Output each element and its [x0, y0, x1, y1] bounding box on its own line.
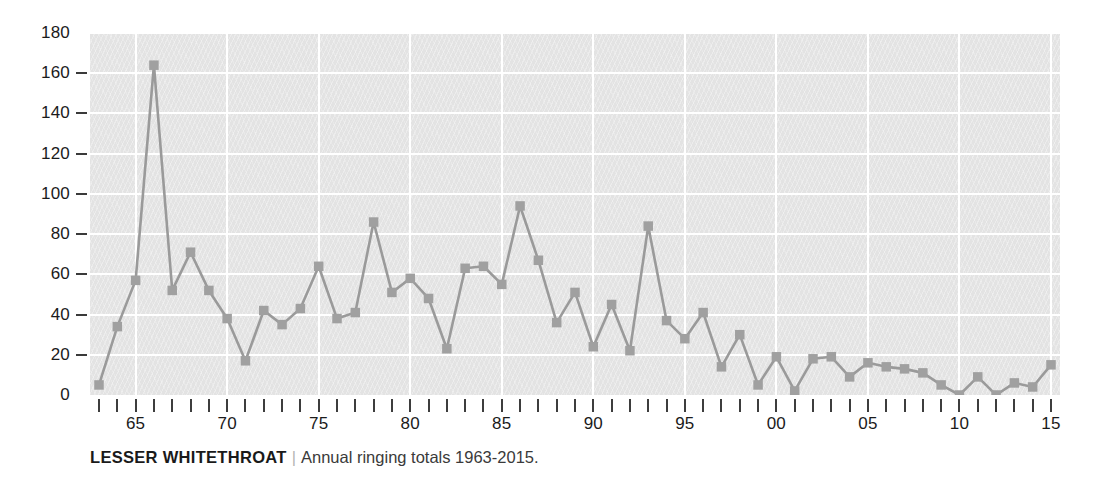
- x-axis-tick-mark: [849, 399, 851, 412]
- y-axis: 020406080100120140160180: [0, 0, 90, 488]
- data-point-marker: [442, 344, 452, 354]
- data-point-marker: [479, 262, 489, 272]
- x-axis-tick-mark: [428, 399, 430, 412]
- x-axis-tick-label: 10: [950, 414, 969, 434]
- x-axis-tick-mark: [98, 399, 100, 412]
- data-point-marker: [332, 314, 342, 324]
- x-axis-tick-mark: [336, 399, 338, 412]
- x-axis-tick-mark: [684, 399, 686, 412]
- x-axis-tick-mark: [171, 399, 173, 412]
- data-point-marker: [314, 262, 324, 272]
- y-axis-tick-label: 0: [60, 387, 70, 403]
- x-axis-tick-label: 65: [126, 414, 145, 434]
- x-axis-tick-mark: [556, 399, 558, 412]
- x-axis-tick-mark: [958, 399, 960, 412]
- x-axis-tick-mark: [464, 399, 466, 412]
- y-axis-tick-mark: [76, 273, 87, 275]
- y-axis-tick-label: 20: [51, 347, 70, 363]
- x-axis-tick-mark: [922, 399, 924, 412]
- x-axis-tick-mark: [391, 399, 393, 412]
- y-axis-tick-mark: [76, 354, 87, 356]
- data-point-marker: [113, 322, 123, 332]
- x-axis-tick-mark: [812, 399, 814, 412]
- data-point-marker: [625, 346, 635, 356]
- data-point-marker: [534, 256, 544, 266]
- data-point-marker: [607, 300, 617, 310]
- x-axis-tick-mark: [867, 399, 869, 412]
- series-line: [99, 65, 1051, 395]
- y-axis-tick-label: 40: [51, 307, 70, 323]
- x-axis-tick-label: 95: [675, 414, 694, 434]
- x-axis-tick-mark: [519, 399, 521, 412]
- x-axis-tick-mark: [757, 399, 759, 412]
- x-axis-tick-mark: [190, 399, 192, 412]
- y-axis-tick-mark: [76, 314, 87, 316]
- x-axis-tick-mark: [995, 399, 997, 412]
- data-point-marker: [643, 221, 653, 231]
- x-axis-tick-mark: [702, 399, 704, 412]
- data-point-marker: [881, 362, 891, 372]
- data-point-marker: [369, 217, 379, 227]
- chart-figure: 020406080100120140160180 657075808590950…: [0, 0, 1101, 488]
- data-point-marker: [296, 304, 306, 314]
- x-axis-tick-mark: [244, 399, 246, 412]
- x-axis-tick-mark: [153, 399, 155, 412]
- data-point-marker: [845, 372, 855, 382]
- x-axis-tick-mark: [1032, 399, 1034, 412]
- data-point-marker: [131, 276, 141, 286]
- x-axis-tick-mark: [1050, 399, 1052, 412]
- x-axis-tick-label: 75: [309, 414, 328, 434]
- y-axis-tick-mark: [76, 72, 87, 74]
- data-point-marker: [1028, 382, 1038, 392]
- data-point-marker: [753, 380, 763, 390]
- data-point-marker: [387, 288, 397, 298]
- x-axis-tick-mark: [830, 399, 832, 412]
- data-point-marker: [515, 201, 525, 211]
- x-axis-tick-mark: [592, 399, 594, 412]
- x-axis-tick-mark: [739, 399, 741, 412]
- data-point-marker: [167, 286, 177, 296]
- data-point-marker: [698, 308, 708, 318]
- caption-subtitle: Annual ringing totals 1963-2015.: [301, 448, 539, 466]
- y-axis-tick-label: 60: [51, 266, 70, 282]
- data-point-marker: [735, 330, 745, 340]
- x-axis-tick-mark: [354, 399, 356, 412]
- x-axis-tick-mark: [720, 399, 722, 412]
- x-axis-tick-mark: [409, 399, 411, 412]
- x-axis-tick-label: 05: [858, 414, 877, 434]
- data-point-marker: [497, 280, 507, 290]
- x-axis-tick-mark: [647, 399, 649, 412]
- data-point-marker: [241, 356, 251, 366]
- data-point-marker: [94, 380, 104, 390]
- y-axis-tick-label: 100: [41, 186, 70, 202]
- x-axis-tick-mark: [775, 399, 777, 412]
- y-axis-tick-mark: [76, 193, 87, 195]
- data-point-marker: [351, 308, 361, 318]
- caption: LESSER WHITETHROAT|Annual ringing totals…: [90, 448, 539, 467]
- x-axis-tick-label: 70: [217, 414, 236, 434]
- data-point-marker: [570, 288, 580, 298]
- x-axis-tick-mark: [904, 399, 906, 412]
- data-point-marker: [405, 274, 415, 284]
- x-axis-tick-mark: [135, 399, 137, 412]
- data-point-marker: [204, 286, 214, 296]
- x-axis-tick-mark: [281, 399, 283, 412]
- data-point-marker: [1046, 360, 1056, 370]
- x-axis-tick-mark: [116, 399, 118, 412]
- x-axis-tick-mark: [501, 399, 503, 412]
- caption-separator: |: [287, 448, 301, 466]
- y-axis-tick-label: 160: [41, 65, 70, 81]
- y-axis-tick-label: 140: [41, 105, 70, 121]
- data-point-marker: [918, 368, 928, 378]
- line-series: [90, 33, 1060, 395]
- x-axis-tick-mark: [263, 399, 265, 412]
- x-axis-tick-mark: [1013, 399, 1015, 412]
- y-axis-tick-mark: [76, 233, 87, 235]
- x-axis-tick-mark: [482, 399, 484, 412]
- x-axis: 6570758085909500051015: [90, 395, 1060, 445]
- data-point-marker: [1010, 378, 1020, 388]
- data-point-marker: [277, 320, 287, 330]
- y-axis-tick-mark: [76, 153, 87, 155]
- data-point-marker: [936, 380, 946, 390]
- x-axis-tick-mark: [977, 399, 979, 412]
